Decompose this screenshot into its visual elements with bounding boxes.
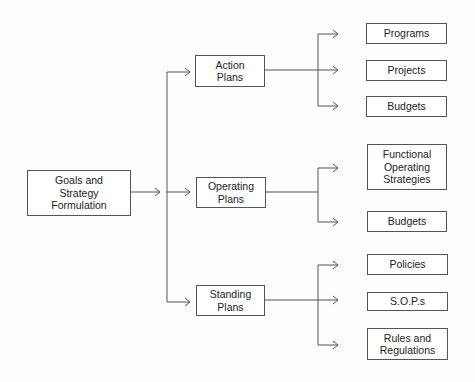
planning-hierarchy-diagram: Goals and Strategy Formulation Action Pl…	[0, 0, 475, 382]
operating-plans-box: Operating Plans	[196, 177, 266, 208]
policies-box: Policies	[367, 254, 448, 275]
operating-budgets-box: Budgets	[367, 211, 447, 232]
standing-plans-box: Standing Plans	[196, 285, 265, 316]
operating-budgets-label: Budgets	[388, 215, 427, 228]
programs-box: Programs	[366, 23, 447, 44]
sops-box: S.O.P.s	[367, 292, 448, 311]
rules-regulations-box: Rules and Regulations	[367, 328, 448, 360]
programs-label: Programs	[384, 27, 430, 40]
functional-operating-strategies-box: Functional Operating Strategies	[367, 144, 447, 190]
goals-strategy-box: Goals and Strategy Formulation	[27, 170, 131, 216]
action-plans-label: Action Plans	[215, 59, 244, 84]
operating-plans-label: Operating Plans	[208, 180, 254, 205]
projects-label: Projects	[388, 64, 426, 77]
rules-regulations-label: Rules and Regulations	[380, 332, 435, 357]
sops-label: S.O.P.s	[390, 295, 425, 308]
action-budgets-label: Budgets	[387, 100, 426, 113]
policies-label: Policies	[389, 258, 425, 271]
standing-plans-label: Standing Plans	[210, 288, 251, 313]
action-budgets-box: Budgets	[366, 96, 447, 117]
goals-strategy-label: Goals and Strategy Formulation	[51, 174, 106, 212]
functional-operating-strategies-label: Functional Operating Strategies	[383, 148, 431, 186]
action-plans-box: Action Plans	[195, 55, 265, 87]
projects-box: Projects	[366, 60, 447, 81]
